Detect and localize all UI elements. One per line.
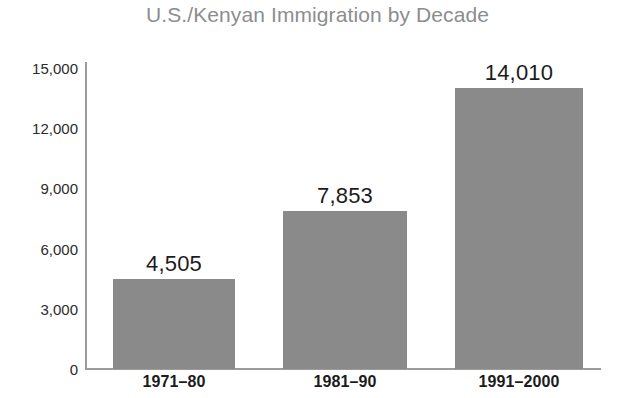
- plot-area: 03,0006,0009,00012,00015,000 4,5057,8531…: [0, 0, 635, 398]
- y-axis-tick-label: 12,000: [0, 121, 78, 136]
- bar: [283, 211, 407, 369]
- bar: [455, 88, 583, 369]
- x-axis-tick-label: 1971–80: [83, 374, 265, 390]
- y-axis-line: [85, 62, 87, 370]
- bar-value-label: 7,853: [283, 185, 407, 207]
- bar: [113, 279, 235, 369]
- y-axis-tick-label: 15,000: [0, 61, 78, 76]
- y-axis-tick-label: 9,000: [0, 181, 78, 196]
- bar-chart: U.S./Kenyan Immigration by Decade 03,000…: [0, 0, 635, 398]
- x-axis-tick-label: 1991–2000: [425, 374, 613, 390]
- y-axis-tick-label: 0: [0, 362, 78, 377]
- x-axis-tick-label: 1981–90: [253, 374, 437, 390]
- bar-value-label: 14,010: [455, 62, 583, 84]
- y-axis-tick-label: 6,000: [0, 242, 78, 257]
- bar-value-label: 4,505: [113, 253, 235, 275]
- y-axis-tick-label: 3,000: [0, 302, 78, 317]
